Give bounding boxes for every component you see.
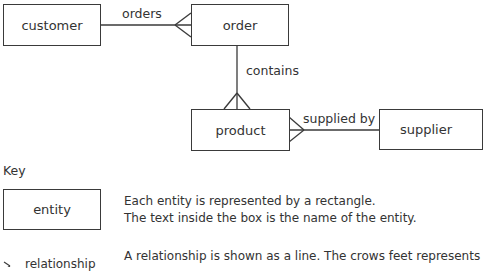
key-crows-foot [4, 262, 10, 267]
entity-supplier[interactable]: supplier [379, 109, 483, 150]
key-entity-description: Each entity is represented by a rectangl… [124, 193, 417, 227]
key-title: Key [3, 163, 26, 178]
key-relationship-description: A relationship is shown as a line. The c… [124, 248, 480, 265]
entity-product[interactable]: product [191, 109, 290, 151]
entity-order-label: order [223, 18, 258, 33]
key-entity-desc-line2: The text inside the box is the name of t… [124, 210, 417, 227]
key-relationship-desc-line1: A relationship is shown as a line. The c… [124, 248, 480, 265]
key-entity-label: entity [33, 202, 71, 217]
key-relationship-label: relationship [25, 257, 96, 271]
entity-customer[interactable]: customer [3, 4, 101, 46]
relationship-contains-label: contains [246, 63, 299, 78]
key-entity-box: entity [3, 189, 101, 230]
key-entity-desc-line1: Each entity is represented by a rectangl… [124, 193, 417, 210]
relationship-supplied-by-label: supplied by [303, 111, 375, 126]
entity-customer-label: customer [21, 18, 82, 33]
entity-supplier-label: supplier [400, 122, 452, 137]
entity-product-label: product [215, 123, 265, 138]
relationship-orders-label: orders [122, 6, 162, 21]
entity-order[interactable]: order [191, 4, 289, 46]
